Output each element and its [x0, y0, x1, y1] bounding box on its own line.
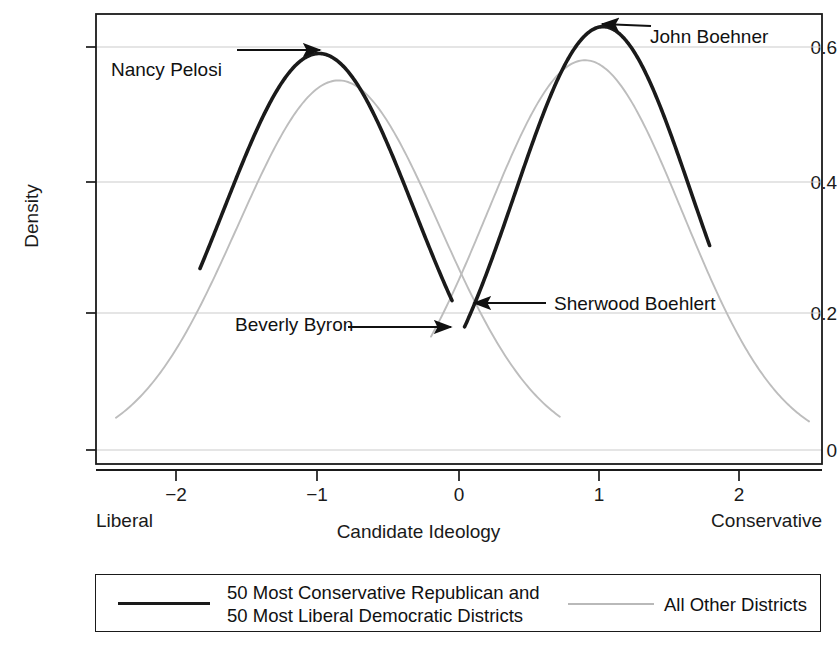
legend: 50 Most Conservative Republican and 50 M…	[95, 574, 821, 632]
y-axis-ticks	[86, 47, 96, 450]
legend-label-extreme-districts-line1: 50 Most Conservative Republican and	[227, 582, 540, 604]
gridlines	[96, 47, 822, 450]
legend-swatch-other-districts	[568, 603, 654, 605]
density-plot-figure: Density 0.6 0.4 0.2 0 −2 −1 0 1 2 Libera…	[0, 0, 837, 647]
plot-canvas	[0, 0, 837, 647]
series-all-other-districts	[116, 60, 809, 421]
legend-label-other-districts: All Other Districts	[664, 594, 807, 616]
plot-frame	[96, 14, 822, 464]
series-extreme-districts	[200, 27, 710, 327]
legend-label-extreme-districts-line2: 50 Most Liberal Democratic Districts	[227, 605, 523, 627]
arrow-john-boehner	[602, 24, 651, 26]
legend-swatch-extreme-districts	[118, 602, 210, 605]
x-axis	[96, 470, 822, 481]
